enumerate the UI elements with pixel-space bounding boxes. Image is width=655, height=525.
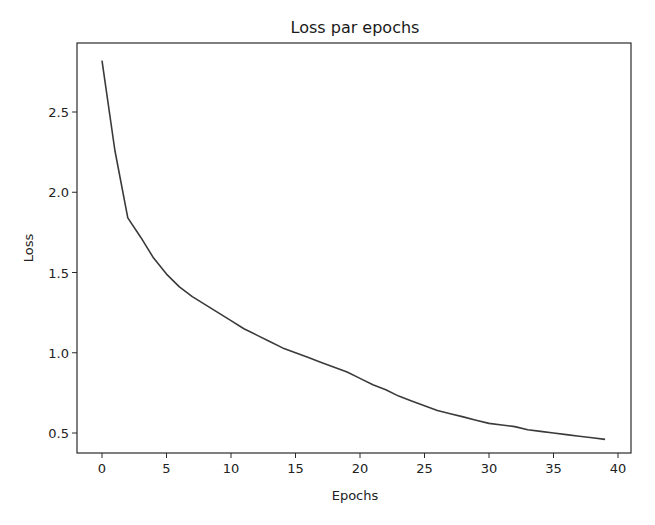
y-axis: 0.51.01.52.02.5 — [48, 105, 77, 441]
x-tick-label: 35 — [545, 461, 562, 476]
y-tick-label: 2.5 — [48, 105, 69, 120]
y-tick-label: 1.0 — [48, 346, 69, 361]
loss-chart: Loss par epochs 0510152025303540 0.51.01… — [0, 0, 655, 525]
x-tick-label: 5 — [162, 461, 170, 476]
x-tick-label: 15 — [287, 461, 304, 476]
x-axis: 0510152025303540 — [98, 453, 626, 476]
plot-area-frame — [77, 43, 631, 453]
chart-title: Loss par epochs — [291, 18, 420, 37]
x-tick-label: 10 — [223, 461, 240, 476]
x-tick-label: 0 — [98, 461, 106, 476]
x-tick-label: 25 — [416, 461, 433, 476]
loss-series-line — [102, 61, 605, 440]
x-tick-label: 40 — [610, 461, 627, 476]
y-tick-label: 2.0 — [48, 185, 69, 200]
y-tick-label: 1.5 — [48, 266, 69, 281]
x-tick-label: 30 — [481, 461, 498, 476]
y-axis-label: Loss — [21, 234, 36, 263]
x-axis-label: Epochs — [332, 488, 379, 503]
x-tick-label: 20 — [352, 461, 369, 476]
y-tick-label: 0.5 — [48, 426, 69, 441]
